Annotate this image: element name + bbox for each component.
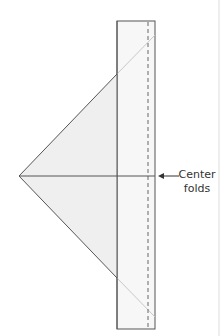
paper-strip (117, 21, 155, 329)
callout-label-line2: folds (184, 182, 211, 195)
arrow-left-icon (158, 173, 164, 179)
callout-label-line1: Center (178, 168, 216, 181)
fold-diagram: Center folds (0, 0, 223, 336)
